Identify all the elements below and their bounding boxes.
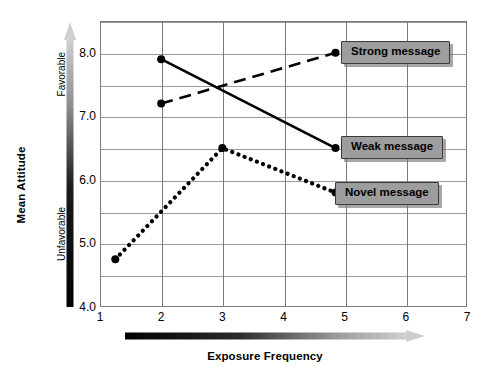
gridline-horizontal [101, 244, 466, 245]
x-axis-tick-label: 6 [391, 311, 421, 323]
gridline-horizontal [101, 86, 466, 87]
plot-area [100, 21, 467, 307]
chart-figure: Mean Attitude Favorable Unfavorable 4.05… [0, 0, 494, 382]
x-axis-tick-label: 7 [452, 311, 482, 323]
x-axis-tick-label: 2 [146, 311, 176, 323]
x-axis-tick-label: 4 [269, 311, 299, 323]
y-axis-title-text: Mean Attitude [15, 147, 27, 224]
y-axis-tick-label: 7.0 [66, 110, 96, 122]
x-axis-tick-labels: 1234567 [100, 311, 467, 329]
gridline-vertical [285, 22, 286, 306]
callout-strong-message: Strong message [341, 41, 450, 64]
x-axis-tick-label: 1 [85, 311, 115, 323]
y-axis-tick-labels: 4.05.06.07.08.0 [62, 21, 96, 307]
gridline-vertical [407, 22, 408, 306]
y-axis-valence-labels: Favorable Unfavorable [40, 22, 62, 307]
callout-novel-message: Novel message [335, 182, 439, 205]
gridline-horizontal [101, 22, 466, 23]
y-axis-tick-label: 5.0 [66, 237, 96, 249]
gridline-vertical [223, 22, 224, 306]
gridline-horizontal [101, 276, 466, 277]
y-axis-title: Mean Attitude [8, 120, 34, 250]
x-axis-tick-label: 3 [207, 311, 237, 323]
y-axis-tick-label: 8.0 [66, 47, 96, 59]
x-axis-title: Exposure Frequency [150, 350, 380, 362]
callout-weak-message: Weak message [341, 136, 443, 159]
y-axis-tick-label: 6.0 [66, 174, 96, 186]
gridline-vertical [346, 22, 347, 306]
gridline-vertical [162, 22, 163, 306]
gridline-horizontal [101, 117, 466, 118]
gridline-horizontal [101, 213, 466, 214]
x-axis-tick-label: 5 [330, 311, 360, 323]
x-axis-valence-gradient-arrow [125, 330, 425, 342]
